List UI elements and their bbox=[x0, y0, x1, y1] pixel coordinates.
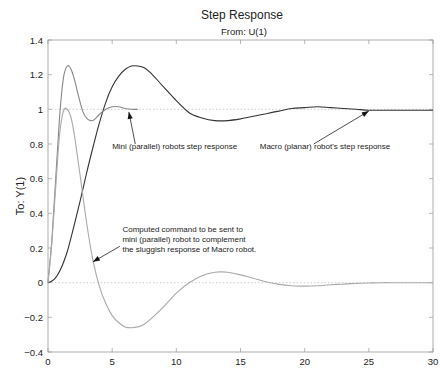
reference-lines bbox=[48, 109, 433, 282]
y-tick-label: 0.6 bbox=[30, 173, 43, 184]
annotation-arrow-line bbox=[314, 111, 369, 144]
plot-axes: 051015202530−0.4−0.200.20.40.60.811.21.4 bbox=[24, 35, 438, 368]
x-tick-label: 10 bbox=[171, 356, 182, 367]
y-tick-label: 1 bbox=[38, 104, 43, 115]
y-tick-label: 0.8 bbox=[30, 139, 43, 150]
annotation-text: Mini (parallel) robots step response bbox=[112, 142, 237, 151]
y-tick-label: 1.4 bbox=[30, 35, 43, 46]
annotation-text: the sluggish response of Macro robot. bbox=[122, 245, 256, 254]
annotation-text: Macro (planar) robot's step response bbox=[260, 142, 391, 151]
arrow-head-icon bbox=[128, 112, 133, 119]
annotations: Mini (parallel) robots step responseMacr… bbox=[93, 111, 391, 262]
y-tick-label: 0.4 bbox=[30, 208, 43, 219]
series-line-2 bbox=[48, 108, 433, 328]
arrow-head-icon bbox=[93, 256, 100, 262]
series-lines bbox=[48, 66, 433, 328]
y-tick-label: 0 bbox=[38, 277, 43, 288]
x-tick-label: 20 bbox=[299, 356, 310, 367]
arrow-head-icon bbox=[361, 111, 368, 117]
annotation-text: Computed command to be sent to bbox=[122, 225, 243, 234]
x-tick-label: 15 bbox=[235, 356, 246, 367]
y-axis-label: To: Y(1) bbox=[14, 177, 26, 215]
x-tick-label: 5 bbox=[110, 356, 115, 367]
y-tick-label: −0.2 bbox=[24, 312, 43, 323]
y-tick-label: 0.2 bbox=[30, 243, 43, 254]
chart-title: Step Response bbox=[201, 8, 283, 22]
plot-frame bbox=[48, 40, 433, 352]
x-tick-label: 25 bbox=[364, 356, 375, 367]
y-tick-label: −0.4 bbox=[24, 347, 43, 358]
x-tick-label: 30 bbox=[428, 356, 439, 367]
annotation-text: mini (parallel) robot to complement bbox=[122, 235, 246, 244]
step-response-chart: Step Response From: U(1) To: Y(1) 051015… bbox=[0, 0, 448, 378]
x-tick-label: 0 bbox=[45, 356, 50, 367]
chart-subtitle: From: U(1) bbox=[221, 26, 267, 37]
y-tick-label: 1.2 bbox=[30, 69, 43, 80]
